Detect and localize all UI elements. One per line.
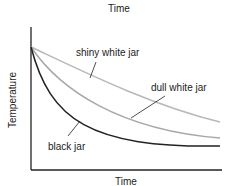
black-leader [68,121,80,136]
cooling-curves-diagram: Time Temperature Time shiny white jar du… [0,0,234,186]
shiny-label: shiny white jar [76,47,140,58]
dull-label: dull white jar [151,82,207,93]
y-axis-label: Temperature [7,71,18,128]
top-title: Time [108,3,130,14]
black-jar-curve [31,47,220,146]
black-label: black jar [48,141,86,152]
x-axis-label: Time [115,176,137,186]
